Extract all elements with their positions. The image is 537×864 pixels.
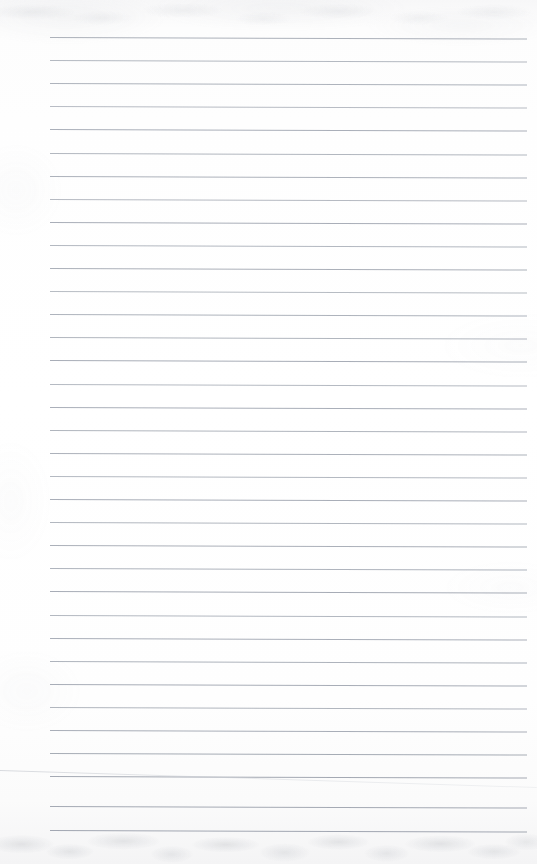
ruled-line <box>50 291 527 294</box>
ruled-line <box>50 522 527 525</box>
ruled-line <box>50 591 527 594</box>
ruled-line <box>50 129 527 131</box>
ruled-line <box>50 176 527 178</box>
paper-grain-bottom-edge <box>0 820 537 864</box>
ruled-line <box>50 661 527 664</box>
ruled-line <box>50 684 527 687</box>
ruled-line <box>50 83 527 85</box>
ruled-line <box>50 753 527 756</box>
ruled-line <box>50 430 527 433</box>
ruled-line <box>50 153 527 155</box>
ruled-line <box>50 384 527 387</box>
ruled-line <box>50 314 527 317</box>
ruled-line <box>50 37 527 39</box>
ruled-line <box>50 476 527 479</box>
ruled-line <box>50 222 527 224</box>
ruled-line <box>50 337 527 340</box>
ruled-line <box>50 568 527 571</box>
ruled-line <box>50 453 527 456</box>
ruled-line <box>50 730 527 733</box>
ruled-line <box>50 707 527 710</box>
ruled-line <box>50 499 527 502</box>
ruled-line <box>50 360 527 363</box>
ruled-line <box>50 268 527 271</box>
ruled-line <box>50 106 527 108</box>
ruled-line <box>50 806 527 809</box>
scanned-page <box>0 0 537 864</box>
ruled-line <box>50 60 527 62</box>
ruled-line <box>50 407 527 410</box>
ruled-line <box>50 245 527 247</box>
ruled-line <box>50 638 527 641</box>
ruled-line <box>50 615 527 618</box>
ruled-lines-layer <box>0 0 537 864</box>
ruled-line <box>50 199 527 201</box>
ruled-line <box>50 545 527 548</box>
